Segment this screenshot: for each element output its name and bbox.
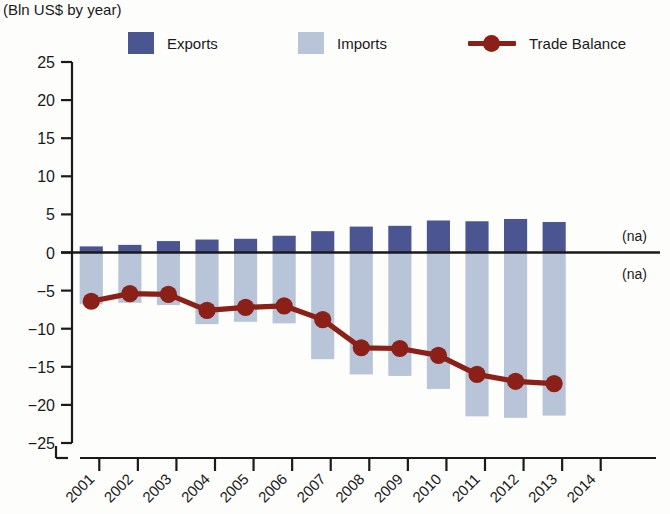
bar-exports [465, 221, 488, 252]
bar-imports [504, 253, 527, 418]
x-tick-label: 2006 [255, 470, 291, 506]
point-trade-balance [468, 366, 485, 383]
point-trade-balance [121, 285, 138, 302]
x-tick-label: 2004 [178, 470, 214, 506]
x-tick-label: 2013 [525, 470, 561, 506]
point-trade-balance [160, 286, 177, 303]
bar-imports [427, 253, 450, 389]
bar-exports [504, 219, 527, 253]
x-tick-label: 2005 [216, 470, 252, 506]
x-tick-label: 2009 [370, 470, 406, 506]
bar-exports [388, 226, 411, 253]
point-trade-balance [353, 339, 370, 356]
imports-na: (na) [622, 266, 647, 282]
y-tick-label: −5 [37, 283, 55, 300]
point-trade-balance [546, 375, 563, 392]
bar-exports [273, 236, 296, 253]
y-tick-label: −20 [28, 397, 55, 414]
point-trade-balance [83, 293, 100, 310]
x-tick-label: 2010 [409, 470, 445, 506]
x-tick-label: 2014 [563, 470, 599, 506]
y-tick-label: 15 [37, 130, 55, 147]
point-trade-balance [391, 340, 408, 357]
bar-exports [543, 222, 566, 252]
bar-exports [311, 231, 334, 252]
x-tick-label: 2003 [139, 470, 175, 506]
y-tick-label: −10 [28, 321, 55, 338]
point-trade-balance [314, 311, 331, 328]
chart-plot-area: 2520151050−5−10−15−20−25(na)(na)20012002… [0, 0, 670, 514]
y-tick-label: 0 [46, 245, 55, 262]
x-tick-label: 2008 [332, 470, 368, 506]
point-trade-balance [276, 297, 293, 314]
x-tick-label: 2002 [100, 470, 136, 506]
bar-exports [157, 241, 180, 252]
x-tick-label: 2007 [293, 470, 329, 506]
y-tick-label: 20 [37, 92, 55, 109]
exports-na: (na) [622, 228, 647, 244]
point-trade-balance [237, 299, 254, 316]
point-trade-balance [507, 373, 524, 390]
bar-exports [234, 239, 257, 253]
y-tick-label: −25 [28, 435, 55, 452]
y-tick-label: 10 [37, 168, 55, 185]
bar-imports [388, 253, 411, 376]
x-tick-label: 2011 [448, 470, 483, 505]
y-tick-label: 25 [37, 54, 55, 71]
y-tick-label: 5 [46, 206, 55, 223]
y-tick-label: −15 [28, 359, 55, 376]
x-tick-label: 2012 [486, 470, 522, 506]
bar-imports [465, 253, 488, 417]
x-tick-label: 2001 [62, 470, 98, 506]
chart-root: (Bln US$ by year) Exports Imports Trade … [0, 0, 670, 514]
point-trade-balance [198, 302, 215, 319]
bar-exports [427, 220, 450, 252]
bar-exports [350, 227, 373, 253]
chart-svg: 2520151050−5−10−15−20−25(na)(na)20012002… [0, 0, 670, 514]
point-trade-balance [430, 347, 447, 364]
bar-imports [311, 253, 334, 360]
bar-exports [195, 240, 218, 253]
